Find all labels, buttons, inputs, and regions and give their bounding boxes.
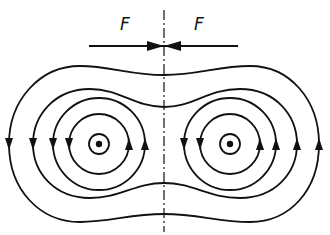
arrow-down-icon [180,138,188,150]
arrow-up-icon [125,138,133,150]
arrow-up-icon [272,138,280,150]
force-label-left: F [120,14,130,34]
down-arrowheads [5,138,204,150]
diagram: F F [0,0,330,235]
arrow-down-icon [29,138,37,150]
right-conductor-dot-icon [227,141,233,147]
field-diagram-svg: F F [0,0,330,235]
arrow-up-icon [256,138,264,150]
arrow-down-icon [196,138,204,150]
arrow-up-icon [315,138,323,150]
arrow-up-icon [293,138,301,150]
arrow-down-icon [49,138,57,150]
force-label-right: F [194,14,204,34]
up-arrowheads [125,138,323,150]
arrow-down-icon [65,138,73,150]
arrow-down-icon [5,138,13,150]
force-arrow-left [147,41,164,51]
force-arrow-right [164,41,181,51]
arrow-up-icon [141,138,149,150]
left-conductor-dot-icon [96,141,102,147]
